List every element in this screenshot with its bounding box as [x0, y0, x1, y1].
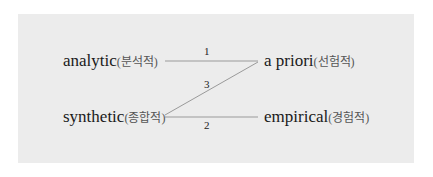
term-a-priori: a priori(선험적): [264, 51, 355, 72]
connection-lines: [0, 0, 433, 177]
term-analytic: analytic(분석적): [63, 51, 158, 72]
connection-label-1: 1: [204, 45, 210, 57]
connection-label-2: 2: [204, 119, 210, 131]
line-3: [165, 62, 258, 115]
connection-label-3: 3: [204, 78, 210, 90]
term-synthetic: synthetic(종합적): [63, 107, 165, 128]
term-empirical: empirical(경험적): [264, 107, 369, 128]
